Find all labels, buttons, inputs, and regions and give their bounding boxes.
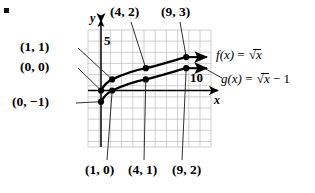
function-g-arg: (x) xyxy=(228,71,242,86)
leader-9-3 xyxy=(180,22,186,57)
label-point-0-0: (0, 0) xyxy=(20,60,49,74)
sqrt-icon-f: √x xyxy=(248,48,262,61)
x-tick-10: 10 xyxy=(190,71,203,84)
function-label-f: f(x) = √x xyxy=(216,48,262,61)
label-point-4-2: (4, 2) xyxy=(110,5,139,19)
sqrt-icon-g: √x xyxy=(256,72,270,85)
y-axis-label: y xyxy=(90,12,95,24)
function-g-tail: − 1 xyxy=(270,71,290,86)
label-point-1-0: (1, 0) xyxy=(85,163,114,177)
label-point-1-1: (1, 1) xyxy=(20,40,49,54)
leader-0-0 xyxy=(78,68,101,91)
function-label-g: g(x) = √x − 1 xyxy=(221,72,290,85)
label-point-9-2: (9, 2) xyxy=(172,163,201,177)
label-point-9-3: (9, 3) xyxy=(161,5,190,19)
graph-figure: y x 5 10 (1, 1) (0, 0) (0, −1) (4, 2) (9… xyxy=(0,0,315,193)
function-f-equals: = xyxy=(234,47,248,62)
label-point-0-neg1: (0, −1) xyxy=(12,95,49,109)
label-point-4-1: (4, 1) xyxy=(128,163,157,177)
leader-0-neg1 xyxy=(76,102,101,103)
leader-1-0 xyxy=(107,91,112,161)
x-axis-label: x xyxy=(214,94,220,106)
y-tick-5: 5 xyxy=(104,34,111,47)
leader-4-2 xyxy=(131,22,146,68)
leader-g-label xyxy=(205,69,222,78)
function-g-equals: = xyxy=(242,71,256,86)
function-f-arg: (x) xyxy=(220,47,234,62)
leader-9-2 xyxy=(182,68,186,160)
